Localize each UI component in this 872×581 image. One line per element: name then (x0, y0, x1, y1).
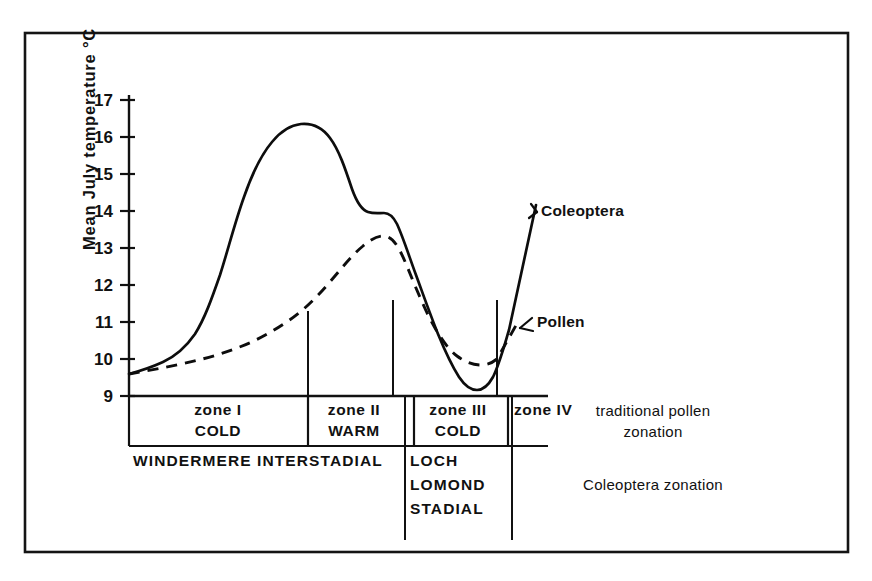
climate-curve-figure: Mean July temperature °C 17 16 15 14 13 … (0, 0, 872, 581)
pollen-zonation-row: zone I COLD zone II WARM zone III COLD z… (129, 396, 573, 446)
right-captions: traditional pollen zonation Coleoptera z… (583, 402, 723, 493)
pollen-annotation: Pollen (520, 313, 585, 331)
zone-label-2-name: zone II (328, 401, 380, 418)
y-tick-label-17: 17 (94, 91, 113, 110)
zone-boundary-ticks (308, 300, 497, 396)
zone-label-1-climate: COLD (195, 422, 241, 439)
y-tick-label-12: 12 (94, 276, 113, 295)
strat-label-lomond: LOMOND (410, 476, 485, 493)
caption-coleoptera-zonation: Coleoptera zonation (583, 476, 723, 493)
coleoptera-annotation: Coleoptera (529, 202, 624, 219)
y-axis-tick-labels: 17 16 15 14 13 12 11 10 9 (94, 91, 113, 406)
y-tick-label-11: 11 (95, 313, 113, 332)
pollen-label: Pollen (537, 313, 585, 330)
coleoptera-label: Coleoptera (541, 202, 624, 219)
strat-label-stadial: STADIAL (410, 500, 484, 517)
zone-label-3-name: zone III (429, 401, 486, 418)
y-tick-label-14: 14 (94, 202, 113, 221)
y-tick-label-16: 16 (94, 128, 113, 147)
figure-frame (25, 33, 848, 552)
zone-label-4-name: zone IV (514, 401, 573, 418)
coleoptera-curve (129, 124, 536, 390)
y-tick-label-9: 9 (104, 387, 113, 406)
y-tick-label-13: 13 (94, 239, 113, 258)
zone-label-3-climate: COLD (435, 422, 481, 439)
pollen-leader-tip-icon (520, 328, 533, 331)
pollen-curve (129, 236, 519, 374)
zone-label-1-name: zone I (194, 401, 242, 418)
strat-label-loch: LOCH (410, 452, 458, 469)
pollen-leader-icon (520, 318, 532, 328)
caption-pollen-zonation-line1: traditional pollen (596, 402, 711, 419)
y-tick-label-10: 10 (94, 350, 113, 369)
y-tick-label-15: 15 (94, 165, 113, 184)
figure-root: Mean July temperature °C 17 16 15 14 13 … (0, 0, 872, 581)
y-axis-ticks (120, 100, 135, 396)
zone-label-2-climate: WARM (328, 422, 379, 439)
strat-label-windermere: WINDERMERE INTERSTADIAL (133, 452, 383, 469)
caption-pollen-zonation-line2: zonation (623, 423, 682, 440)
